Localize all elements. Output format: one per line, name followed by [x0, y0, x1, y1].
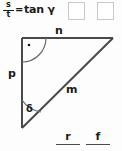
- label-side-n: n: [55, 25, 63, 36]
- fraction-f-numerator: f: [86, 131, 110, 143]
- fraction-r: r: [56, 131, 80, 151]
- fraction-f: f: [86, 131, 110, 151]
- fraction-r-numerator: r: [56, 131, 80, 143]
- label-side-p: p: [8, 68, 16, 79]
- worksheet-page: s t = tan γ n p m δ r: [0, 0, 122, 151]
- right-angle-arc: [22, 38, 46, 62]
- answer-box-1[interactable]: [68, 2, 85, 20]
- fraction-f-denominator: [86, 145, 110, 151]
- triangle-figure: n p m δ: [0, 24, 122, 132]
- fraction-s-over-t: s t: [3, 1, 14, 19]
- fraction-denominator: t: [3, 11, 14, 19]
- label-angle-delta: δ: [26, 103, 33, 114]
- equation-row: s t = tan γ: [0, 0, 122, 24]
- fraction-r-denominator: [56, 145, 80, 151]
- equals-sign: =: [15, 4, 23, 16]
- bottom-fraction-row: r f: [0, 131, 122, 151]
- label-side-m: m: [66, 84, 77, 95]
- right-angle-dot-icon: [28, 44, 31, 47]
- triangle-svg: [0, 24, 122, 132]
- fraction-numerator: s: [3, 1, 14, 9]
- answer-box-2[interactable]: [97, 2, 114, 20]
- tan-gamma-expression: tan γ: [24, 3, 55, 16]
